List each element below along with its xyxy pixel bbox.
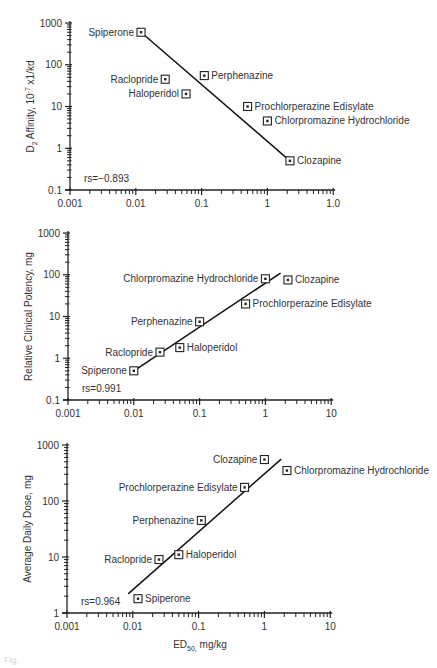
y-tick-label: 1000 bbox=[40, 18, 63, 29]
point-label: Prochlorperazine Edisylate bbox=[119, 482, 238, 493]
data-point: Chlorpromazine Hydrochloride bbox=[263, 115, 409, 126]
marker-dot bbox=[133, 370, 135, 372]
x-axis-label-ed50: ED50, mg/kg bbox=[173, 639, 227, 652]
point-label: Clozapine bbox=[295, 274, 340, 285]
point-label: Raclopride bbox=[105, 347, 153, 358]
marker-dot bbox=[179, 346, 181, 348]
marker-dot bbox=[244, 303, 246, 305]
marker-dot bbox=[164, 78, 166, 80]
x-tick-label: 1.0 bbox=[326, 198, 340, 209]
data-point: Raclopride bbox=[104, 554, 163, 565]
x-tick-label: 0.01 bbox=[126, 198, 146, 209]
x-tick-label: 1 bbox=[265, 198, 271, 209]
chart-d2-affinity: 0.111010010000.0010.010.111.0D2 Affinity… bbox=[24, 18, 410, 210]
marker-dot bbox=[158, 558, 160, 560]
data-point: Haloperidol bbox=[175, 549, 237, 560]
data-point: Perphenazine bbox=[133, 515, 206, 526]
x-tick-label: 0.001 bbox=[55, 408, 80, 419]
chart-average-daily-dose: 11010010000.0010.010.1110Average Daily D… bbox=[22, 440, 429, 633]
marker-dot bbox=[200, 519, 202, 521]
y-axis-label: D2 Affinity, 10-7 x1/kd bbox=[24, 60, 38, 152]
point-label: Chlorpromazine Hydrochloride bbox=[274, 115, 409, 126]
point-label: Spiperone bbox=[145, 593, 191, 604]
data-point: Spiperone bbox=[134, 593, 191, 604]
point-label: Spiperone bbox=[81, 365, 127, 376]
data-point: Haloperidol bbox=[128, 88, 190, 99]
y-tick-label: 1 bbox=[54, 353, 60, 364]
data-point: Haloperidol bbox=[176, 342, 238, 353]
point-label: Prochlorperazine Edisylate bbox=[253, 298, 372, 309]
data-point: Clozapine bbox=[286, 155, 342, 166]
marker-dot bbox=[246, 105, 248, 107]
figure: 0.111010010000.0010.010.111.0D2 Affinity… bbox=[0, 0, 437, 668]
x-tick-label: 0.1 bbox=[193, 408, 207, 419]
y-tick-label: 100 bbox=[43, 269, 60, 280]
data-point: Spiperone bbox=[81, 365, 138, 376]
data-point: Chlorpromazine Hydrochloride bbox=[283, 465, 429, 476]
marker-dot bbox=[137, 598, 139, 600]
marker-dot bbox=[243, 486, 245, 488]
y-axis-label: Relative Clinical Potency, mg bbox=[23, 252, 34, 381]
x-tick-label: 1 bbox=[262, 621, 268, 632]
x-tick-label: 10 bbox=[325, 621, 337, 632]
point-label: Clozapine bbox=[297, 155, 342, 166]
chart-relative-clinical-potency: 0.111010010000.0010.010.1110Relative Cli… bbox=[23, 228, 372, 420]
marker-dot bbox=[286, 469, 288, 471]
y-tick-label: 1 bbox=[56, 143, 62, 154]
point-label: Raclopride bbox=[104, 554, 152, 565]
marker-dot bbox=[159, 351, 161, 353]
marker-dot bbox=[266, 120, 268, 122]
data-point: Chlorpromazine Hydrochloride bbox=[123, 273, 269, 284]
correlation-annotation: rs=−0.893 bbox=[84, 173, 129, 184]
y-tick-label: 1000 bbox=[38, 228, 61, 239]
marker-dot bbox=[289, 160, 291, 162]
y-tick-label: 10 bbox=[48, 552, 60, 563]
marker-dot bbox=[178, 553, 180, 555]
point-label: Perphenazine bbox=[211, 70, 273, 81]
y-tick-label: 0.1 bbox=[48, 185, 62, 196]
x-tick-label: 0.1 bbox=[192, 621, 206, 632]
marker-dot bbox=[140, 31, 142, 33]
y-axis-label: Average Daily Dose, mg bbox=[22, 475, 33, 583]
x-tick-label: 0.01 bbox=[124, 408, 144, 419]
marker-dot bbox=[198, 321, 200, 323]
marker-dot bbox=[264, 278, 266, 280]
point-label: Perphenazine bbox=[131, 316, 193, 327]
x-tick-label: 0.001 bbox=[54, 621, 79, 632]
point-label: Chlorpromazine Hydrochloride bbox=[123, 273, 258, 284]
regression-line bbox=[128, 459, 281, 594]
data-point: Clozapine bbox=[284, 274, 340, 285]
y-tick-label: 10 bbox=[49, 311, 61, 322]
marker-dot bbox=[203, 74, 205, 76]
point-label: Haloperidol bbox=[187, 342, 238, 353]
data-point: Prochlorperazine Edisylate bbox=[119, 482, 249, 493]
point-label: Haloperidol bbox=[186, 549, 237, 560]
point-label: Prochlorperazine Edisylate bbox=[255, 101, 374, 112]
x-tick-label: 1 bbox=[263, 408, 269, 419]
point-label: Spiperone bbox=[88, 27, 134, 38]
data-point: Prochlorperazine Edisylate bbox=[244, 101, 374, 112]
point-label: Chlorpromazine Hydrochloride bbox=[294, 465, 429, 476]
data-point: Perphenazine bbox=[131, 316, 204, 327]
x-tick-label: 10 bbox=[326, 408, 338, 419]
marker-dot bbox=[287, 279, 289, 281]
y-tick-label: 10 bbox=[51, 101, 63, 112]
data-point: Perphenazine bbox=[200, 70, 273, 81]
data-point: Clozapine bbox=[213, 454, 268, 465]
correlation-annotation: rs=0.964 bbox=[81, 596, 121, 607]
point-label: Perphenazine bbox=[133, 515, 195, 526]
correlation-annotation: rs=0.991 bbox=[82, 383, 122, 394]
y-tick-label: 100 bbox=[45, 59, 62, 70]
y-tick-label: 1 bbox=[53, 608, 59, 619]
y-tick-label: 0.1 bbox=[46, 395, 60, 406]
data-point: Spiperone bbox=[88, 27, 145, 38]
x-tick-label: 0.001 bbox=[57, 198, 82, 209]
y-tick-label: 1000 bbox=[37, 440, 60, 451]
marker-dot bbox=[263, 458, 265, 460]
point-label: Haloperidol bbox=[128, 88, 179, 99]
data-point: Prochlorperazine Edisylate bbox=[242, 298, 372, 309]
data-point: Raclopride bbox=[110, 74, 169, 85]
y-tick-label: 100 bbox=[42, 496, 59, 507]
x-tick-label: 0.01 bbox=[123, 621, 143, 632]
x-tick-label: 0.1 bbox=[195, 198, 209, 209]
